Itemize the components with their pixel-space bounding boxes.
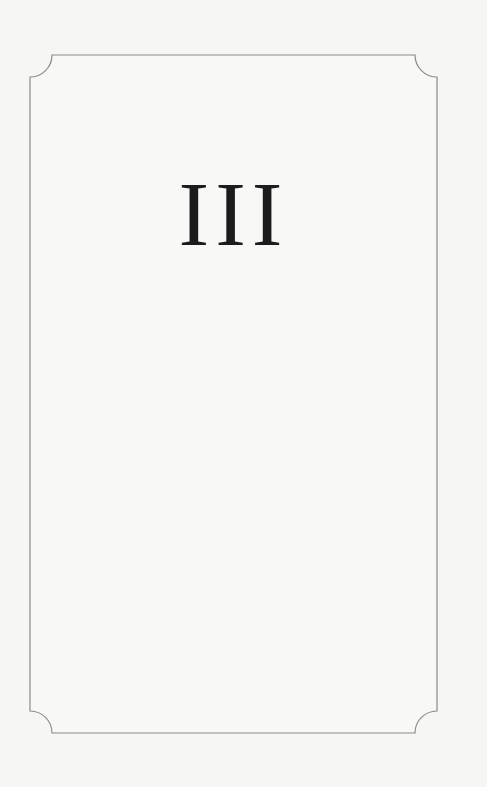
book-page: III [0, 0, 487, 787]
decorative-frame [0, 0, 487, 787]
chapter-numeral: III [0, 168, 467, 260]
